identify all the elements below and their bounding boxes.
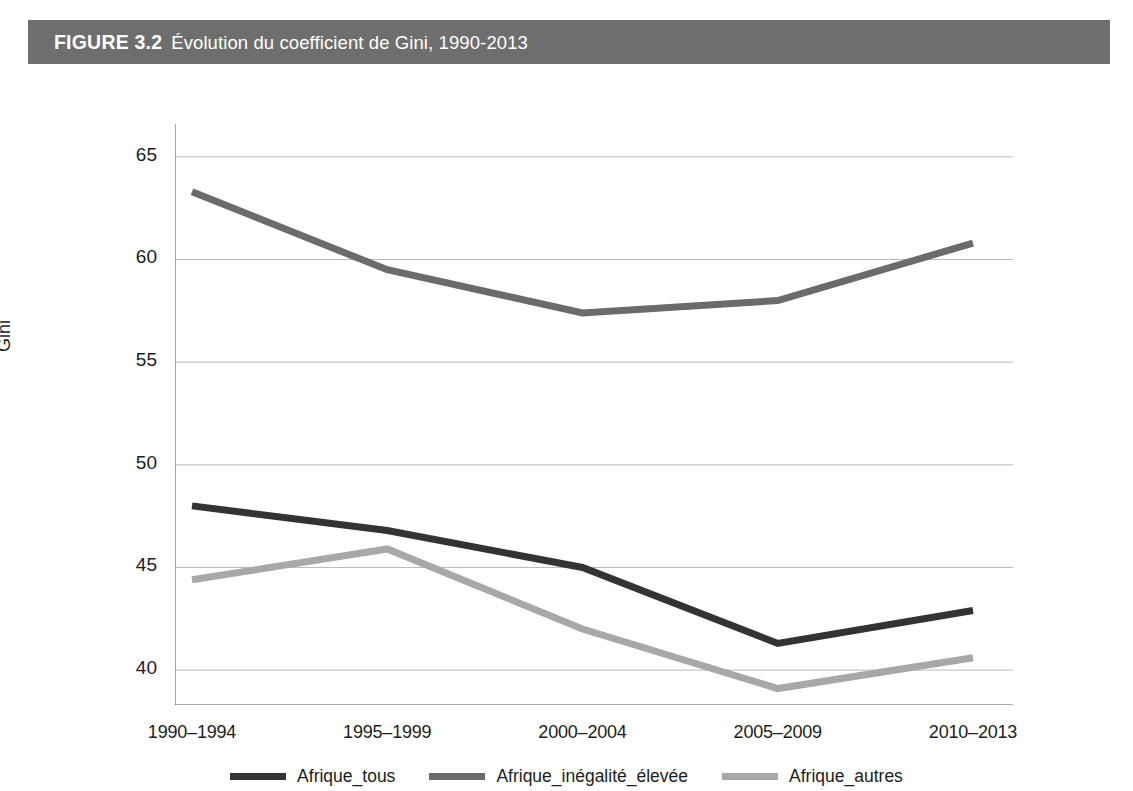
legend-swatch xyxy=(722,773,778,780)
legend-swatch xyxy=(230,773,286,780)
y-axis-tick-label: 60 xyxy=(97,246,157,268)
figure-banner: FIGURE 3.2Évolution du coefficient de Gi… xyxy=(28,20,1110,64)
y-axis-tick-label: 45 xyxy=(97,554,157,576)
axis-frame xyxy=(175,124,1013,705)
chart-area: Gini 404550556065 1990–19941995–19992000… xyxy=(0,64,1133,775)
plot-area: 404550556065 1990–19941995–19992000–2004… xyxy=(175,124,1013,705)
legend-item[interactable]: Afrique_autres xyxy=(722,766,903,787)
legend-item[interactable]: Afrique_tous xyxy=(230,766,395,787)
x-axis-tick-label: 1995–1999 xyxy=(307,722,467,743)
figure-title: Évolution du coefficient de Gini, 1990-2… xyxy=(171,32,528,53)
chart-legend: Afrique_tousAfrique_inégalité_élevéeAfri… xyxy=(0,759,1133,791)
x-axis-tick-label: 2005–2009 xyxy=(698,722,858,743)
figure-banner-text: FIGURE 3.2Évolution du coefficient de Gi… xyxy=(28,31,528,54)
x-axis-tick-label: 2000–2004 xyxy=(503,722,663,743)
legend-item[interactable]: Afrique_inégalité_élevée xyxy=(429,766,688,787)
legend-label: Afrique_tous xyxy=(297,766,395,787)
y-axis-tick-label: 50 xyxy=(97,452,157,474)
data-series-group xyxy=(192,192,973,689)
series-line-2 xyxy=(192,192,973,313)
x-axis-tick-label: 1990–1994 xyxy=(112,722,272,743)
legend-swatch xyxy=(429,773,485,780)
y-axis-tick-label: 65 xyxy=(97,144,157,166)
y-axis-tick-label: 40 xyxy=(97,657,157,679)
x-axis-tick-label: 2010–2013 xyxy=(893,722,1053,743)
y-axis-tick-label: 55 xyxy=(97,349,157,371)
figure-number: FIGURE 3.2 xyxy=(54,31,162,53)
line-chart-svg xyxy=(175,124,1013,705)
legend-label: Afrique_autres xyxy=(789,766,903,787)
y-axis-title: Gini xyxy=(0,320,15,352)
series-line-1 xyxy=(192,506,973,644)
legend-label: Afrique_inégalité_élevée xyxy=(496,766,688,787)
